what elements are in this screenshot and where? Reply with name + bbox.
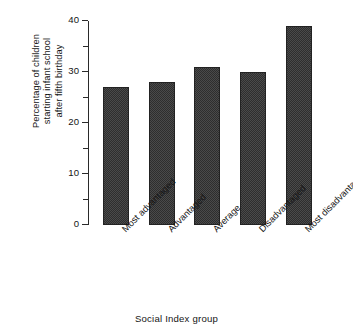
x-axis-tick-labels: Most advantagedAdvantagedAverageDisadvan…	[88, 227, 353, 307]
y-tick-label: 30	[68, 64, 79, 77]
y-tick-label: 0	[74, 217, 79, 230]
y-tick-label: 10	[68, 166, 79, 179]
y-axis-title-text: Percentage of children starting infant s…	[31, 34, 66, 128]
x-axis-title: Social Index group	[0, 313, 353, 324]
x-tick-label: Average	[211, 227, 219, 235]
x-tick-label: Disadvantaged	[257, 227, 265, 235]
x-tick-label: Advantaged	[166, 227, 174, 235]
x-tick-label: Most disadvantaged	[303, 227, 311, 235]
bar[interactable]	[103, 87, 129, 225]
y-tick-label: 20	[68, 115, 79, 128]
y-tick-label: 40	[68, 13, 79, 26]
bar[interactable]	[240, 72, 266, 225]
y-axis-title: Percentage of children starting infant s…	[25, 0, 71, 181]
x-tick-label: Most advantaged	[120, 227, 128, 235]
bar-chart: Percentage of children starting infant s…	[0, 0, 353, 333]
